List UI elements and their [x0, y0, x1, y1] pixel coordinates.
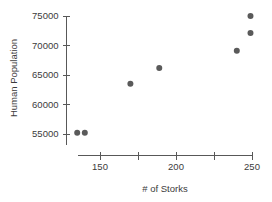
y-axis-title: Human Population [8, 39, 19, 117]
y-tick-label: 55000 [32, 128, 58, 139]
data-point [247, 13, 253, 19]
data-point [127, 81, 133, 87]
y-tick-label: 75000 [32, 10, 58, 21]
y-tick-label: 65000 [32, 69, 58, 80]
data-point [74, 130, 80, 136]
y-tick-label: 70000 [32, 40, 58, 51]
data-point [247, 30, 253, 36]
x-axis [78, 152, 252, 160]
chart-canvas: 7500070000650006000055000 150200250 # of… [0, 0, 272, 202]
scatter-chart: 7500070000650006000055000 150200250 # of… [0, 0, 272, 202]
y-axis-tick-labels: 7500070000650006000055000 [32, 10, 58, 139]
data-point [82, 130, 88, 136]
x-tick-label: 200 [168, 161, 184, 172]
y-axis [63, 16, 70, 145]
data-point [234, 48, 240, 54]
data-points [74, 13, 253, 136]
data-point [156, 65, 162, 71]
x-tick-label: 150 [92, 161, 108, 172]
x-tick-label: 250 [244, 161, 260, 172]
x-axis-tick-labels: 150200250 [92, 161, 260, 172]
y-tick-label: 60000 [32, 99, 58, 110]
x-axis-title: # of Storks [142, 183, 188, 194]
